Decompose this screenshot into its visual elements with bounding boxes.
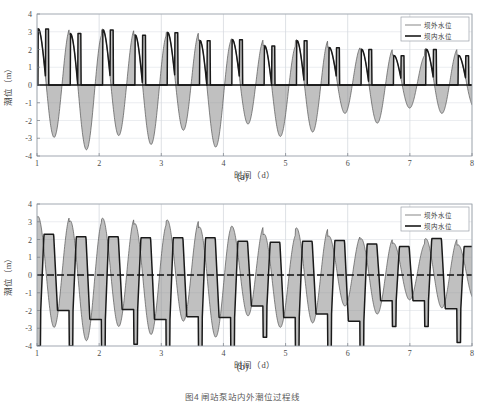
svg-text:潮位（m）: 潮位（m） <box>3 254 13 297</box>
svg-text:-4: -4 <box>25 152 32 161</box>
svg-text:-2: -2 <box>25 117 32 126</box>
svg-text:1: 1 <box>35 349 39 358</box>
svg-text:3: 3 <box>28 218 32 227</box>
svg-text:潮位（m）: 潮位（m） <box>3 64 13 107</box>
svg-text:1: 1 <box>28 253 32 262</box>
svg-text:坝外水位: 坝外水位 <box>424 21 452 30</box>
svg-text:-3: -3 <box>25 324 32 333</box>
svg-text:7: 7 <box>408 159 412 168</box>
chart-a: 12345678-4-3-2-101234时间（d）潮位（m）坝外水位坝内水位 <box>0 0 485 190</box>
panel-a: 12345678-4-3-2-101234时间（d）潮位（m）坝外水位坝内水位 … <box>0 0 485 190</box>
svg-text:4: 4 <box>28 10 32 19</box>
svg-text:1: 1 <box>28 63 32 72</box>
panel-a-caption: (a) <box>0 172 485 182</box>
svg-text:坝内水位: 坝内水位 <box>424 32 452 41</box>
svg-text:-2: -2 <box>25 307 32 316</box>
svg-text:8: 8 <box>470 349 474 358</box>
svg-text:5: 5 <box>284 349 288 358</box>
panel-b-caption: (b) <box>0 362 485 372</box>
svg-text:4: 4 <box>28 200 32 209</box>
svg-text:2: 2 <box>97 349 101 358</box>
svg-text:4: 4 <box>221 159 225 168</box>
svg-text:0: 0 <box>28 271 32 280</box>
svg-text:2: 2 <box>28 236 32 245</box>
svg-text:-4: -4 <box>25 342 32 351</box>
svg-text:3: 3 <box>159 349 163 358</box>
panel-b: 12345678-4-3-2-101234时间（d）潮位（m）坝外水位坝内水位 … <box>0 190 485 380</box>
svg-text:2: 2 <box>97 159 101 168</box>
svg-text:8: 8 <box>470 159 474 168</box>
svg-text:3: 3 <box>159 159 163 168</box>
svg-text:1: 1 <box>35 159 39 168</box>
svg-text:6: 6 <box>346 159 350 168</box>
svg-text:坝内水位: 坝内水位 <box>424 222 452 231</box>
svg-text:-3: -3 <box>25 134 32 143</box>
svg-text:0: 0 <box>28 81 32 90</box>
svg-text:7: 7 <box>408 349 412 358</box>
svg-text:3: 3 <box>28 28 32 37</box>
figure-caption: 图4 闸站泵站内外潮位过程线 <box>0 390 485 402</box>
svg-text:2: 2 <box>28 46 32 55</box>
svg-text:-1: -1 <box>25 289 32 298</box>
svg-text:坝外水位: 坝外水位 <box>424 211 452 220</box>
svg-text:-1: -1 <box>25 99 32 108</box>
svg-text:6: 6 <box>346 349 350 358</box>
chart-b: 12345678-4-3-2-101234时间（d）潮位（m）坝外水位坝内水位 <box>0 190 485 380</box>
svg-text:5: 5 <box>284 159 288 168</box>
svg-text:4: 4 <box>221 349 225 358</box>
